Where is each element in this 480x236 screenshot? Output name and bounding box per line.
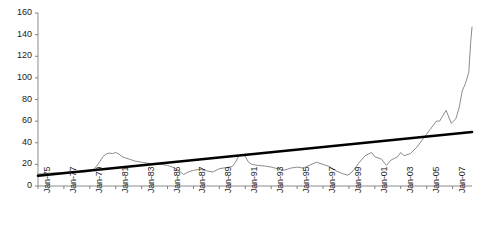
y-tick-label: 100 (6, 73, 32, 82)
chart-axes (35, 13, 472, 189)
y-tick-label: 160 (6, 8, 32, 17)
chart-series-group (38, 27, 472, 176)
trend-line-path (38, 132, 472, 176)
y-tick-label: 60 (6, 116, 32, 125)
chart-plot-area (0, 0, 480, 236)
y-tick-label: 140 (6, 30, 32, 39)
chart-container: 020406080100120140160 Jan-75Jan-77Jan-79… (0, 0, 480, 236)
y-tick-label: 80 (6, 95, 32, 104)
y-axis-tick-labels: 020406080100120140160 (0, 0, 32, 236)
y-tick-label: 40 (6, 138, 32, 147)
y-tick-label: 120 (6, 51, 32, 60)
y-tick-label: 20 (6, 159, 32, 168)
y-tick-label: 0 (6, 181, 32, 190)
